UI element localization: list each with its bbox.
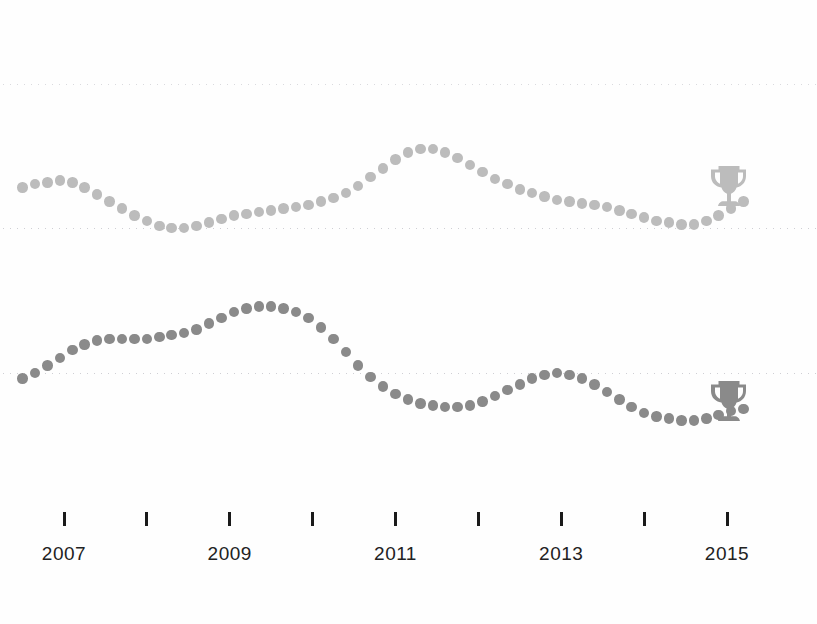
data-point bbox=[104, 334, 115, 345]
data-point bbox=[204, 217, 215, 228]
trophy-icon-bottom bbox=[705, 378, 753, 430]
data-point bbox=[341, 347, 352, 358]
data-point bbox=[639, 408, 650, 419]
data-point bbox=[79, 339, 90, 350]
data-point bbox=[689, 219, 700, 230]
data-point bbox=[428, 144, 439, 155]
data-point bbox=[241, 303, 252, 314]
chart-canvas: 20072009201120132015 bbox=[0, 0, 817, 624]
data-point bbox=[539, 370, 550, 381]
data-point bbox=[378, 381, 389, 392]
x-axis-tick bbox=[477, 512, 480, 526]
data-point bbox=[104, 196, 115, 207]
data-point bbox=[564, 196, 575, 207]
data-point bbox=[676, 415, 687, 426]
data-point bbox=[229, 210, 240, 221]
data-point bbox=[166, 330, 177, 341]
data-point bbox=[30, 368, 41, 379]
x-axis-year-label: 2015 bbox=[705, 543, 749, 565]
data-point bbox=[552, 368, 563, 379]
data-point bbox=[614, 205, 625, 216]
data-point bbox=[216, 313, 227, 324]
data-point bbox=[577, 373, 588, 384]
data-point bbox=[142, 334, 153, 345]
data-point bbox=[303, 313, 314, 324]
data-point bbox=[328, 334, 339, 345]
data-point bbox=[154, 332, 165, 343]
data-point bbox=[415, 144, 426, 155]
data-point bbox=[415, 398, 426, 409]
data-point bbox=[30, 179, 41, 190]
data-point bbox=[440, 402, 451, 413]
data-point bbox=[365, 372, 376, 383]
data-point bbox=[490, 174, 501, 185]
data-point bbox=[676, 219, 687, 230]
data-point bbox=[254, 207, 265, 218]
data-point bbox=[539, 191, 550, 202]
data-point bbox=[589, 379, 600, 390]
x-axis-tick bbox=[145, 512, 148, 526]
data-point bbox=[614, 394, 625, 405]
top-sparkline-panel bbox=[0, 0, 817, 300]
data-point bbox=[403, 394, 414, 405]
data-point bbox=[229, 307, 240, 318]
data-point bbox=[390, 154, 401, 165]
data-point bbox=[502, 385, 513, 396]
data-point bbox=[303, 200, 314, 211]
data-point bbox=[440, 147, 451, 158]
data-point bbox=[626, 209, 637, 220]
data-point bbox=[365, 172, 376, 183]
data-point bbox=[291, 202, 302, 213]
data-point bbox=[403, 147, 414, 158]
data-point bbox=[378, 163, 389, 174]
data-point bbox=[353, 181, 364, 192]
data-point bbox=[639, 212, 650, 223]
data-point bbox=[166, 223, 177, 234]
data-point bbox=[552, 195, 563, 206]
data-point bbox=[651, 216, 662, 227]
data-point bbox=[465, 160, 476, 171]
data-point bbox=[664, 217, 675, 228]
data-point bbox=[341, 188, 352, 199]
data-point bbox=[266, 205, 277, 216]
data-point bbox=[428, 400, 439, 411]
data-point bbox=[477, 167, 488, 178]
data-point bbox=[328, 193, 339, 204]
data-point bbox=[179, 328, 190, 339]
x-axis-tick bbox=[643, 512, 646, 526]
bottom-gridline bbox=[0, 373, 817, 374]
data-point bbox=[79, 182, 90, 193]
bottom-sparkline-panel bbox=[0, 300, 817, 490]
data-point bbox=[316, 196, 327, 207]
data-point bbox=[527, 188, 538, 199]
x-axis-tick bbox=[394, 512, 397, 526]
data-point bbox=[241, 209, 252, 220]
data-point bbox=[589, 200, 600, 211]
data-point bbox=[179, 223, 190, 234]
data-point bbox=[278, 303, 289, 314]
data-point bbox=[515, 379, 526, 390]
data-point bbox=[191, 221, 202, 232]
data-point bbox=[55, 175, 66, 186]
x-axis-year-label: 2013 bbox=[539, 543, 583, 565]
data-point bbox=[490, 391, 501, 402]
data-point bbox=[502, 179, 513, 190]
data-point bbox=[154, 221, 165, 232]
data-point bbox=[626, 402, 637, 413]
data-point bbox=[316, 322, 327, 333]
data-point bbox=[142, 216, 153, 227]
top-gridline-upper bbox=[0, 84, 817, 85]
data-point bbox=[602, 387, 613, 398]
x-axis-tick bbox=[63, 512, 66, 526]
x-axis-tick bbox=[726, 512, 729, 526]
data-point bbox=[564, 370, 575, 381]
x-axis-tick bbox=[228, 512, 231, 526]
data-point bbox=[477, 396, 488, 407]
data-point bbox=[254, 301, 265, 312]
x-axis-tick bbox=[560, 512, 563, 526]
data-point bbox=[67, 177, 78, 188]
data-point bbox=[216, 214, 227, 225]
data-point bbox=[117, 203, 128, 214]
data-point bbox=[465, 400, 476, 411]
data-point bbox=[278, 203, 289, 214]
